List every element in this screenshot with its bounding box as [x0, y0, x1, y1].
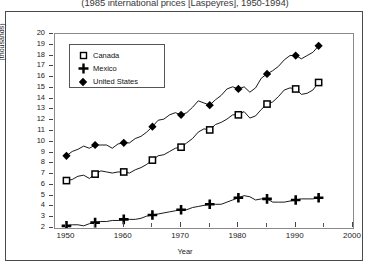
x-minor-tick-mark [94, 223, 95, 227]
y-tick-label: 15 [23, 83, 45, 91]
y-tick-label: 3 [23, 212, 45, 220]
x-tick-label: 1960 [103, 231, 143, 240]
figure-caption: (1985 international prices [Laspeyres], … [0, 0, 370, 8]
legend-label-united-states: United States [91, 77, 138, 86]
square-marker [149, 157, 155, 163]
plus-marker [75, 63, 91, 74]
figure-root: (1985 international prices [Laspeyres], … [0, 0, 370, 269]
x-minor-tick-mark [209, 223, 210, 227]
plus-marker [119, 215, 129, 225]
x-minor-tick-mark [323, 223, 324, 227]
y-tick-mark [49, 216, 53, 217]
legend-item-united-states: United States [75, 75, 164, 88]
y-tick-label: 20 [23, 29, 45, 37]
diamond-marker [234, 85, 242, 93]
y-tick-label: 16 [23, 72, 45, 80]
x-tick-mark [65, 222, 66, 227]
plus-marker [176, 205, 186, 215]
y-tick-label: 5 [23, 191, 45, 199]
plus-marker [314, 193, 324, 203]
y-tick-mark [49, 227, 53, 228]
x-minor-tick-mark [151, 223, 152, 227]
plus-marker [291, 195, 301, 205]
diamond-marker [120, 139, 128, 147]
x-tick-mark [180, 222, 181, 227]
square-marker [75, 51, 91, 60]
square-marker [92, 171, 98, 177]
y-tick-label: 12 [23, 115, 45, 123]
y-tick-mark [49, 44, 53, 45]
diamond-marker [75, 77, 91, 87]
y-tick-mark [49, 98, 53, 99]
y-tick-mark [49, 55, 53, 56]
y-tick-mark [49, 119, 53, 120]
x-tick-label: 1980 [217, 231, 257, 240]
y-tick-label: 10 [23, 137, 45, 145]
y-tick-label: 8 [23, 158, 45, 166]
x-tick-mark [352, 222, 353, 227]
x-tick-label: 2000 [332, 231, 370, 240]
y-tick-mark [49, 195, 53, 196]
square-marker [207, 127, 213, 133]
y-tick-label: 6 [23, 180, 45, 188]
y-tick-mark [49, 173, 53, 174]
y-tick-mark [49, 33, 53, 34]
square-marker [264, 101, 270, 107]
x-tick-label: 1990 [275, 231, 315, 240]
figure-frame: RGDPL (thousands) Canada Mexico [5, 11, 363, 261]
y-axis-title: RGDPL (thousands) [0, 0, 6, 102]
plus-marker [62, 221, 72, 228]
diamond-marker [263, 70, 271, 78]
plus-marker [90, 218, 100, 228]
square-marker [316, 79, 322, 85]
y-tick-mark [49, 76, 53, 77]
plus-marker [234, 193, 244, 203]
y-tick-label: 14 [23, 94, 45, 102]
y-tick-label: 17 [23, 61, 45, 69]
y-tick-mark [49, 205, 53, 206]
diamond-marker [91, 141, 99, 149]
x-minor-tick-mark [266, 223, 267, 227]
square-marker [121, 169, 127, 175]
x-tick-label: 1950 [45, 231, 85, 240]
y-tick-label: 4 [23, 201, 45, 209]
legend-label-canada: Canada [91, 51, 119, 60]
y-tick-label: 2 [23, 223, 45, 231]
y-tick-mark [49, 141, 53, 142]
y-axis-title-line2: (thousands) [0, 0, 6, 102]
series-mexico [62, 193, 324, 228]
x-tick-mark [123, 222, 124, 227]
square-marker [63, 177, 69, 183]
plot-area: Canada Mexico United States [54, 33, 354, 229]
y-tick-label: 9 [23, 148, 45, 156]
x-tick-mark [237, 222, 238, 227]
y-tick-label: 11 [23, 126, 45, 134]
chart-legend: Canada Mexico United States [69, 44, 165, 88]
series-canada [63, 79, 321, 183]
series-line [66, 83, 318, 181]
y-tick-mark [49, 184, 53, 185]
x-tick-mark [295, 222, 296, 227]
y-tick-mark [49, 87, 53, 88]
legend-item-canada: Canada [75, 49, 164, 62]
y-tick-mark [49, 130, 53, 131]
square-marker [293, 86, 299, 92]
y-tick-mark [49, 152, 53, 153]
plus-marker [262, 194, 272, 204]
square-marker [235, 112, 241, 118]
y-tick-label: 18 [23, 51, 45, 59]
diamond-marker [177, 111, 185, 119]
legend-item-mexico: Mexico [75, 62, 164, 75]
y-tick-label: 19 [23, 40, 45, 48]
diamond-marker [62, 152, 70, 160]
y-tick-label: 7 [23, 169, 45, 177]
square-marker [178, 144, 184, 150]
y-tick-label: 13 [23, 104, 45, 112]
x-tick-label: 1970 [160, 231, 200, 240]
plus-marker [148, 210, 158, 220]
series-line [66, 196, 318, 226]
diamond-marker [292, 51, 300, 59]
plus-marker [205, 199, 215, 209]
y-tick-mark [49, 65, 53, 66]
y-tick-mark [49, 162, 53, 163]
